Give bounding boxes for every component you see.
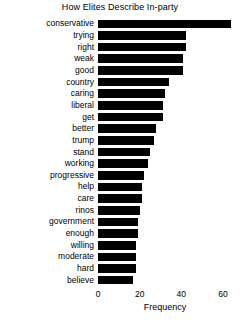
chart-title: How Elites Describe In-party [0,2,240,13]
bar-row [98,20,232,29]
bar [98,54,183,63]
y-axis-tick-label: government [0,217,94,226]
bar [98,194,142,203]
y-axis-tick-label: working [0,159,94,168]
bar [98,148,150,157]
y-axis-tick-label: care [0,194,94,203]
x-axis-tick-label: 0 [96,289,101,299]
bar [98,276,133,285]
bar-row [98,183,232,192]
bar-row [98,229,232,238]
x-axis-tick-labels: 0204060 [0,289,240,303]
y-axis-tick-label: right [0,43,94,52]
y-axis-tick-label: hard [0,264,94,273]
x-axis-tick-label: 60 [218,289,227,299]
y-axis-tick-label: weak [0,54,94,63]
y-axis-tick-label: believe [0,276,94,285]
bar-row [98,101,232,110]
bar [98,206,140,215]
bar-row [98,171,232,180]
bar-row [98,43,232,52]
x-axis-tick-label: 20 [135,289,144,299]
y-axis-category-labels: conservativetryingrightweakgoodcountryca… [0,18,94,286]
bar-row [98,89,232,98]
bar-row [98,218,232,227]
bar-row [98,54,232,63]
y-axis-tick-label: conservative [0,19,94,28]
bar-row [98,124,232,133]
bar-row [98,78,232,87]
y-axis-tick-label: trying [0,31,94,40]
y-axis-tick-label: country [0,78,94,87]
bar [98,241,136,250]
bar-row [98,31,232,40]
x-axis-title: Frequency [98,302,232,313]
bar [98,43,186,52]
bar-row [98,241,232,250]
y-axis-tick-label: good [0,66,94,75]
bar [98,253,136,262]
bar-row [98,113,232,122]
bar-row [98,264,232,273]
y-axis-tick-label: stand [0,148,94,157]
y-axis-tick-label: trump [0,136,94,145]
bar [98,31,186,40]
bar-row [98,206,232,215]
bar-row [98,148,232,157]
y-axis-tick-label: better [0,124,94,133]
x-axis-tick-label: 40 [177,289,186,299]
bar-row [98,159,232,168]
y-axis-tick-label: progressive [0,171,94,180]
bar-row [98,136,232,145]
bar [98,124,156,133]
y-axis-tick-label: caring [0,89,94,98]
bar-row [98,253,232,262]
y-axis-tick-label: rinos [0,206,94,215]
bar-row [98,276,232,285]
bar [98,218,138,227]
y-axis-tick-label: willing [0,241,94,250]
bar [98,66,183,75]
y-axis-tick-label: help [0,182,94,191]
y-axis-tick-label: liberal [0,101,94,110]
y-axis-tick-label: get [0,113,94,122]
bar [98,264,136,273]
bar [98,78,169,87]
bar [98,171,144,180]
y-axis-tick-label: enough [0,229,94,238]
bar [98,89,165,98]
bar-row [98,66,232,75]
plot-area [98,18,232,286]
bar [98,20,231,29]
y-axis-tick-label: moderate [0,252,94,261]
bar-chart: How Elites Describe In-party conservativ… [0,0,240,330]
bar [98,159,148,168]
bar [98,136,154,145]
bar [98,229,138,238]
bar-row [98,194,232,203]
bar [98,113,163,122]
bar [98,183,142,192]
bar [98,101,163,110]
